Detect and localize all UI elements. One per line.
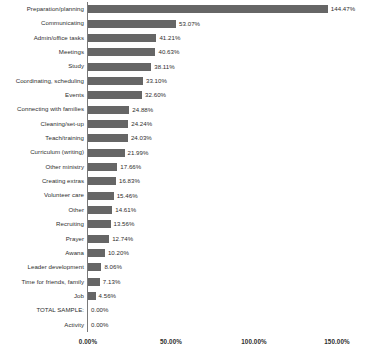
bar-row: Awana10.20% [0, 246, 378, 260]
bar-value-label: 7.13% [103, 278, 121, 286]
category-label: Preparation/planning [1, 2, 87, 16]
category-label: Events [1, 88, 87, 102]
bar [88, 106, 129, 114]
bar-and-value: 12.74% [88, 232, 133, 246]
bar-row: Meetings40.63% [0, 45, 378, 59]
bar-row: Preparation/planning144.47% [0, 2, 378, 16]
plot-area: Preparation/planning144.47%Communicating… [0, 0, 378, 334]
bar [88, 163, 117, 171]
bar-row: Curriculum (writing)21.99% [0, 145, 378, 159]
bar-row: Creating extras16.83% [0, 174, 378, 188]
bar [88, 263, 101, 271]
bar-value-label: 38.11% [154, 63, 175, 71]
bar-and-value: 24.03% [88, 131, 152, 145]
bar-value-label: 17.66% [120, 163, 141, 171]
bar-value-label: 41.21% [159, 34, 180, 42]
bar [88, 48, 155, 56]
bar-and-value: 17.66% [88, 160, 141, 174]
category-label: Curriculum (writing) [1, 145, 87, 159]
bar [88, 192, 114, 200]
bar-value-label: 33.10% [146, 77, 167, 85]
bar-value-label: 32.60% [145, 91, 166, 99]
x-axis-tick: 150.00% [324, 338, 350, 345]
bar-row: Coordinating, scheduling33.10% [0, 74, 378, 88]
bar [88, 177, 116, 185]
category-label: Volunteer care [1, 188, 87, 202]
category-label: Other [1, 203, 87, 217]
bar-row: Teach/training24.03% [0, 131, 378, 145]
bar-value-label: 0.00% [91, 306, 109, 314]
category-label: Communicating [1, 16, 87, 30]
category-label: Recruiting [1, 217, 87, 231]
bar [88, 235, 109, 243]
bar-row: Other14.61% [0, 203, 378, 217]
bar [88, 220, 111, 228]
bar-value-label: 14.61% [115, 206, 136, 214]
category-label: Study [1, 59, 87, 73]
bar [88, 149, 125, 157]
bar-row: Volunteer care15.46% [0, 188, 378, 202]
bar-value-label: 0.00% [91, 321, 109, 329]
bar-and-value: 21.99% [88, 145, 148, 159]
bar-row: TOTAL SAMPLE:0.00% [0, 303, 378, 317]
bar-row: Communicating53.07% [0, 16, 378, 30]
bar-row: Cleaning/set-up24.24% [0, 117, 378, 131]
category-label: Coordinating, scheduling [1, 74, 87, 88]
bar-and-value: 15.46% [88, 188, 138, 202]
category-label: Awana [1, 246, 87, 260]
x-axis-tick: 100.00% [241, 338, 267, 345]
horizontal-bar-chart: Preparation/planning144.47%Communicating… [0, 0, 378, 356]
bar-and-value: 40.63% [88, 45, 179, 59]
bar-and-value: 0.00% [88, 318, 109, 332]
bar [88, 206, 112, 214]
bar-and-value: 53.07% [88, 16, 200, 30]
bar-row: Connecting with families24.88% [0, 102, 378, 116]
bar-row: Admin/office tasks41.21% [0, 31, 378, 45]
bar-value-label: 24.24% [131, 120, 152, 128]
category-label: Time for friends, family [1, 275, 87, 289]
bar-value-label: 24.88% [132, 106, 153, 114]
bar [88, 278, 100, 286]
bar-row: Leader development8.06% [0, 260, 378, 274]
bar-value-label: 4.56% [99, 292, 117, 300]
bar-value-label: 144.47% [331, 5, 355, 13]
category-label: Activity [1, 318, 87, 332]
bar-and-value: 13.56% [88, 217, 134, 231]
bar-value-label: 8.06% [104, 263, 122, 271]
bar-value-label: 15.46% [117, 192, 138, 200]
category-label: Creating extras [1, 174, 87, 188]
bar [88, 5, 328, 13]
bar [88, 91, 142, 99]
bar-and-value: 144.47% [88, 2, 355, 16]
bar-and-value: 8.06% [88, 260, 122, 274]
category-label: Cleaning/set-up [1, 117, 87, 131]
bar-row: Events32.60% [0, 88, 378, 102]
bar-and-value: 41.21% [88, 31, 180, 45]
bar-row: Time for friends, family7.13% [0, 275, 378, 289]
bar [88, 34, 156, 42]
bar-and-value: 7.13% [88, 275, 120, 289]
bar-and-value: 10.20% [88, 246, 129, 260]
bar-value-label: 40.63% [158, 48, 179, 56]
category-label: Meetings [1, 45, 87, 59]
bar-and-value: 0.00% [88, 303, 109, 317]
bar-value-label: 10.20% [108, 249, 129, 257]
bar-row: Study38.11% [0, 59, 378, 73]
category-label: Other ministry [1, 160, 87, 174]
bar-and-value: 4.56% [88, 289, 116, 303]
bar-and-value: 24.88% [88, 102, 153, 116]
bar-row: Other ministry17.66% [0, 160, 378, 174]
bar [88, 249, 105, 257]
bar-and-value: 32.60% [88, 88, 166, 102]
bar-value-label: 24.03% [131, 134, 152, 142]
bar-and-value: 38.11% [88, 59, 175, 73]
bar-value-label: 12.74% [112, 235, 133, 243]
bar-row: Job4.56% [0, 289, 378, 303]
bar [88, 292, 96, 300]
bar-and-value: 24.24% [88, 117, 152, 131]
category-label: Prayer [1, 232, 87, 246]
bar-value-label: 13.56% [114, 220, 135, 228]
x-axis-tick: 0.00% [79, 338, 97, 345]
bar [88, 20, 176, 28]
category-label: TOTAL SAMPLE: [1, 303, 87, 317]
